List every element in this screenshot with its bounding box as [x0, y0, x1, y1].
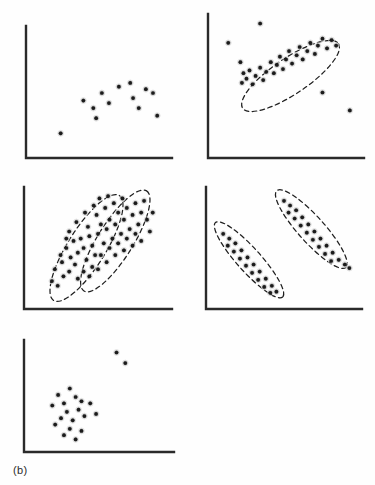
data-point: [325, 244, 329, 248]
data-point: [221, 232, 225, 236]
data-point: [59, 131, 63, 135]
data-point: [284, 58, 288, 62]
data-point: [281, 67, 285, 71]
data-point: [337, 258, 341, 262]
data-point: [74, 438, 78, 442]
data-point: [139, 211, 143, 215]
data-point: [69, 256, 73, 260]
data-point: [293, 217, 297, 221]
data-point: [226, 41, 230, 45]
data-point: [248, 69, 252, 73]
data-point: [300, 215, 304, 219]
data-point: [86, 225, 90, 229]
data-points-layer: [220, 198, 352, 296]
panel-top-left-plot: [10, 22, 180, 172]
data-point: [50, 404, 54, 408]
data-point: [321, 37, 325, 41]
data-point: [59, 253, 63, 257]
data-point: [244, 264, 248, 268]
data-point: [331, 251, 335, 255]
data-point: [56, 284, 60, 288]
data-point: [287, 211, 291, 215]
data-point: [106, 194, 110, 198]
data-point: [290, 62, 294, 66]
data-point: [64, 246, 68, 250]
data-point: [82, 246, 86, 250]
data-point: [131, 96, 135, 100]
data-point: [250, 271, 254, 275]
data-point: [134, 201, 138, 205]
data-point: [80, 399, 84, 403]
panel-top-left: [10, 22, 180, 172]
axis-lines: [24, 340, 174, 452]
data-point: [316, 44, 320, 48]
cluster-ellipse: [267, 182, 355, 276]
data-point: [295, 53, 299, 57]
data-point: [88, 402, 92, 406]
data-point: [85, 258, 89, 262]
data-point: [90, 244, 94, 248]
data-point: [313, 230, 317, 234]
data-point: [148, 230, 152, 234]
data-point: [105, 227, 109, 231]
data-point: [252, 263, 256, 267]
data-point: [99, 223, 103, 227]
data-point: [82, 99, 86, 103]
data-point: [71, 418, 75, 422]
data-point: [116, 211, 120, 215]
data-point: [83, 414, 87, 418]
panel-middle-left-plot: [10, 183, 182, 323]
data-point: [282, 199, 286, 203]
data-point: [155, 114, 159, 118]
data-point: [134, 232, 138, 236]
data-point: [258, 66, 262, 70]
data-point: [95, 213, 99, 217]
data-point: [90, 265, 94, 269]
data-point: [62, 274, 66, 278]
data-point: [246, 256, 250, 260]
data-point: [62, 402, 66, 406]
data-point: [128, 227, 132, 231]
data-point: [77, 408, 81, 412]
data-point: [305, 231, 309, 235]
data-point: [125, 206, 129, 210]
data-point: [50, 279, 54, 283]
data-point: [294, 208, 298, 212]
data-point: [136, 223, 140, 227]
data-point: [144, 87, 148, 91]
data-point: [94, 116, 98, 120]
data-point: [113, 223, 117, 227]
data-point: [330, 38, 334, 42]
data-point: [112, 201, 116, 205]
data-point: [128, 81, 132, 85]
data-point: [93, 253, 97, 257]
data-point: [65, 410, 69, 414]
data-point: [102, 241, 106, 245]
axis-lines: [208, 14, 364, 158]
data-point: [226, 244, 230, 248]
data-point: [59, 416, 63, 420]
data-point: [115, 351, 119, 355]
data-point: [264, 277, 268, 281]
data-point: [68, 387, 72, 391]
panel-top-right-plot: [196, 10, 374, 172]
data-point: [105, 260, 109, 264]
data-point: [348, 266, 352, 270]
data-points-layer: [49, 350, 128, 443]
data-point: [254, 74, 258, 78]
data-point: [116, 241, 120, 245]
data-point: [317, 245, 321, 249]
data-point: [74, 395, 78, 399]
data-point: [72, 239, 76, 243]
data-point: [329, 259, 333, 263]
panel-middle-left: [10, 183, 182, 323]
data-point: [323, 252, 327, 256]
data-point: [67, 270, 71, 274]
data-point: [275, 290, 279, 294]
data-point: [227, 237, 231, 241]
data-point: [348, 109, 352, 113]
data-point: [262, 285, 266, 289]
data-point: [334, 44, 338, 48]
data-points-layer: [58, 80, 160, 136]
panel-bottom: [10, 336, 185, 464]
